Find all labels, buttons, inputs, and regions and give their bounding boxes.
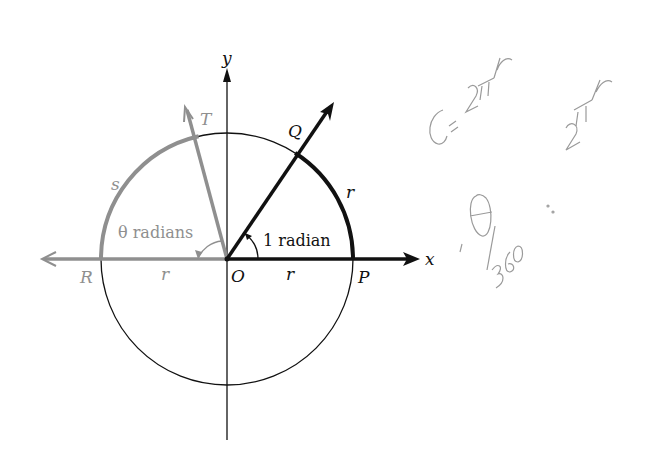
radian-diagram: y x O P Q R T s r r r 1 radian θ radians — [0, 0, 647, 459]
one-radian-label: 1 radian — [263, 231, 331, 250]
handwritten-notes — [430, 58, 612, 288]
theta-angle-arc — [198, 241, 222, 259]
point-Q-label: Q — [288, 121, 302, 141]
radius-right-label: r — [286, 264, 295, 284]
origin-dot — [225, 257, 230, 262]
y-axis-label: y — [221, 48, 232, 68]
radius-left-label: r — [161, 264, 170, 284]
point-P-label: P — [357, 267, 370, 287]
theta-radians-label: θ radians — [118, 223, 193, 242]
x-axis-label: x — [425, 249, 435, 269]
y-axis-arrow-icon — [223, 68, 231, 82]
arc-r-label: r — [346, 182, 355, 202]
arc-s-label: s — [111, 174, 120, 194]
origin-label: O — [231, 266, 245, 286]
point-T-label: T — [200, 109, 213, 129]
point-R-label: R — [79, 267, 93, 287]
